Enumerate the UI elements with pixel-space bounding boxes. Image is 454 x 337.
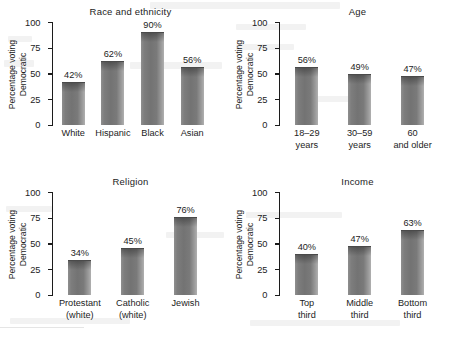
bar [295,254,318,295]
x-axis-tick-label: Topthird [280,298,333,321]
bar-series: 40%47%63% [280,192,439,295]
y-axis-label-line2: Democratic [245,39,256,108]
plot-area: 100 75 50 25 0 40%47%63% [279,192,439,296]
x-axis-labels: WhiteHispanicBlackAsian [53,128,212,140]
y-axis-label-line1: Percentage voting [235,209,246,278]
bar-slot: 56% [172,22,212,125]
bar-slot: 42% [53,22,93,125]
bar-value-label: 34% [71,248,89,258]
plot-area: 100 75 50 25 0 34%45%76% [52,192,212,296]
x-axis-tick-label: Black [133,128,173,140]
y-axis-label-line1: Percentage voting [8,39,19,108]
bar [101,61,124,125]
y-axis-label: Percentage voting Democratic [233,22,257,126]
bar [181,67,204,124]
x-axis-labels: TopthirdMiddlethirdBottomthird [280,298,439,321]
bar [401,76,424,124]
x-axis-labels: 18–29years30–59years60and older [280,128,439,151]
bar [121,248,144,294]
bar-series: 34%45%76% [53,192,212,295]
y-axis-label-line2: Democratic [245,209,256,278]
bar-value-label: 63% [403,218,421,228]
y-tick-75: 75 [48,48,53,49]
chart-panel-grid: Race and ethnicity Percentage voting Dem… [0,0,454,337]
bar-value-label: 76% [176,205,194,215]
bar-slot: 34% [53,192,106,295]
bar-slot: 47% [333,192,386,295]
y-tick-25: 25 [48,99,53,100]
bar [401,230,424,295]
x-axis-tick-label: White [53,128,93,140]
bar [62,82,85,125]
bar [348,246,371,294]
plot-area: 100 75 50 25 0 42%62%90%56% [52,22,212,126]
y-tick-25: 25 [275,99,280,100]
y-tick-50: 50 [48,243,53,244]
y-tick-100: 100 [48,192,53,193]
panel-title: Income [227,176,454,187]
panel-race-and-ethnicity: Race and ethnicity Percentage voting Dem… [0,0,227,170]
y-tick-50: 50 [275,243,280,244]
bar-slot: 49% [333,22,386,125]
x-axis-tick-label: 60and older [386,128,439,151]
y-tick-75: 75 [48,218,53,219]
plot-area: 100 75 50 25 0 56%49%47% [279,22,439,126]
x-axis-tick-label: Catholic(white) [106,298,159,321]
y-tick-75: 75 [275,48,280,49]
bar-value-label: 49% [351,62,369,72]
bar-value-label: 47% [351,234,369,244]
y-tick-50: 50 [275,73,280,74]
y-tick-0: 0 [275,295,280,296]
bar [348,74,371,124]
bar-slot: 90% [133,22,173,125]
bar-value-label: 56% [298,55,316,65]
panel-income: Income Percentage voting Democratic 100 … [227,170,454,337]
x-axis-labels: Protestant(white)Catholic(white)Jewish [53,298,212,321]
x-axis-tick-label: Middlethird [333,298,386,321]
bar-value-label: 45% [124,236,142,246]
y-axis-label: Percentage voting Democratic [6,192,30,296]
bar [141,32,164,124]
y-tick-100: 100 [275,192,280,193]
x-axis-tick-label: 18–29years [280,128,333,151]
x-axis-tick-label: Bottomthird [386,298,439,321]
y-axis-label-line1: Percentage voting [235,39,246,108]
bar-series: 56%49%47% [280,22,439,125]
y-axis-label-line2: Democratic [18,209,29,278]
bar-value-label: 56% [183,55,201,65]
x-axis-tick-label: Jewish [159,298,212,321]
y-tick-75: 75 [275,218,280,219]
y-tick-0: 0 [48,125,53,126]
panel-age: Age Percentage voting Democratic 100 75 … [227,0,454,170]
y-tick-25: 25 [275,269,280,270]
y-tick-0: 0 [48,295,53,296]
y-tick-100: 100 [48,22,53,23]
bar-slot: 63% [386,192,439,295]
bar-slot: 45% [106,192,159,295]
bar-slot: 56% [280,22,333,125]
panel-title: Race and ethnicity [0,6,227,17]
bar-series: 42%62%90%56% [53,22,212,125]
bar-slot: 40% [280,192,333,295]
y-axis-label-line2: Democratic [18,39,29,108]
y-tick-50: 50 [48,73,53,74]
panel-title: Religion [0,176,227,187]
bar-slot: 47% [386,22,439,125]
bar-value-label: 40% [298,242,316,252]
y-axis-label: Percentage voting Democratic [233,192,257,296]
bar-slot: 62% [93,22,133,125]
y-tick-100: 100 [275,22,280,23]
panel-religion: Religion Percentage voting Democratic 10… [0,170,227,337]
panel-title: Age [227,6,454,17]
bar [174,217,197,295]
bar-slot: 76% [159,192,212,295]
y-tick-0: 0 [275,125,280,126]
bar-value-label: 62% [104,49,122,59]
bar-value-label: 47% [403,64,421,74]
x-axis-tick-label: 30–59years [333,128,386,151]
bar-value-label: 90% [143,20,161,30]
x-axis-tick-label: Asian [172,128,212,140]
y-axis-label-line1: Percentage voting [8,209,19,278]
bar [295,67,318,124]
bar-value-label: 42% [64,70,82,80]
